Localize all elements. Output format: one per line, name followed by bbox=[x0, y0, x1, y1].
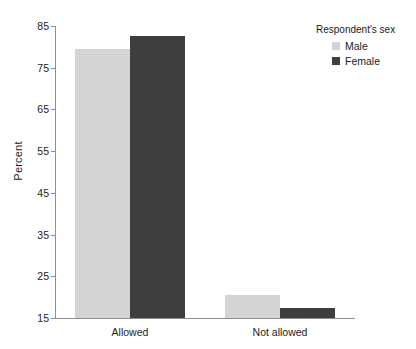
x-axis-label: Not allowed bbox=[253, 326, 308, 338]
bar-allowed-male bbox=[75, 49, 130, 318]
y-axis-title: Percent bbox=[12, 121, 24, 201]
bar-allowed-female bbox=[130, 36, 185, 318]
y-tick-mark bbox=[51, 68, 55, 69]
y-tick-mark bbox=[51, 318, 55, 319]
y-tick-label: 55 bbox=[37, 145, 49, 157]
y-tick-label: 75 bbox=[37, 62, 49, 74]
y-tick-mark bbox=[51, 151, 55, 152]
y-tick-label: 35 bbox=[37, 229, 49, 241]
y-axis-line bbox=[55, 26, 56, 319]
legend-label: Female bbox=[345, 55, 380, 67]
y-tick-label: 15 bbox=[37, 312, 49, 324]
y-tick-mark bbox=[51, 109, 55, 110]
legend-title: Respondent's sex bbox=[316, 24, 414, 35]
legend-item-female: Female bbox=[332, 55, 414, 67]
y-tick-mark bbox=[51, 276, 55, 277]
bar-not-allowed-female bbox=[280, 308, 335, 318]
y-tick-mark bbox=[51, 193, 55, 194]
legend-swatch-male bbox=[332, 42, 340, 50]
x-axis-label: Allowed bbox=[112, 326, 149, 338]
bar-chart: Percent 1525354555657585 AllowedNot allo… bbox=[0, 0, 416, 349]
legend-item-male: Male bbox=[332, 40, 414, 52]
y-tick-label: 45 bbox=[37, 187, 49, 199]
y-tick-label: 65 bbox=[37, 103, 49, 115]
x-axis-line bbox=[55, 318, 355, 319]
y-tick-label: 85 bbox=[37, 20, 49, 32]
legend-items: MaleFemale bbox=[318, 40, 414, 67]
legend-label: Male bbox=[345, 40, 368, 52]
bar-not-allowed-male bbox=[225, 295, 280, 318]
plot-area: 1525354555657585 AllowedNot allowed bbox=[55, 22, 355, 319]
legend-swatch-female bbox=[332, 57, 340, 65]
legend: Respondent's sex MaleFemale bbox=[318, 24, 414, 70]
y-tick-label: 25 bbox=[37, 270, 49, 282]
y-tick-mark bbox=[51, 26, 55, 27]
y-tick-mark bbox=[51, 235, 55, 236]
